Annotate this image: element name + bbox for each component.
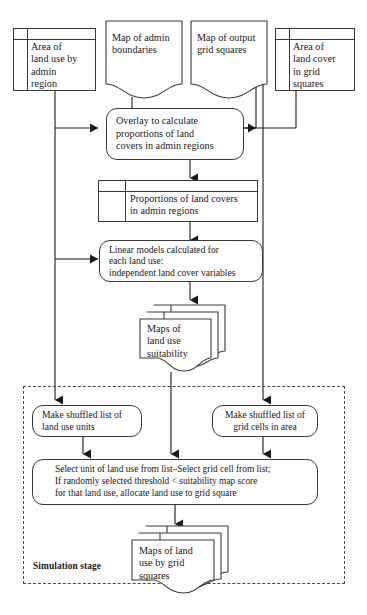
node-label-overlay: Overlay to calculate proportions of land… <box>107 115 243 153</box>
node-map-of-admin-boundaries: Map of admin boundaries <box>105 20 183 100</box>
table-body: Area of land cover in grid squares <box>276 40 354 90</box>
table-header-strip <box>99 181 257 192</box>
table-left-column <box>276 40 290 90</box>
node-area-land-cover-in-grid-squares: Area of land cover in grid squares <box>275 28 355 91</box>
label-simulation-stage: Simulation stage <box>33 561 101 571</box>
node-make-shuffled-list-land-use-units: Make shuffled list of land use units <box>32 405 142 437</box>
node-overlay-process: Overlay to calculate proportions of land… <box>106 108 244 160</box>
node-label-shuffle-land-use: Make shuffled list of land use units <box>33 409 141 432</box>
table-header-strip <box>276 29 354 40</box>
node-make-shuffled-list-grid-cells: Make shuffled list of grid cells in area <box>212 405 318 437</box>
table-body: Area of land use by admin region <box>14 40 95 90</box>
node-maps-of-land-use-by-grid-squares: Maps of land use by grid squares <box>131 524 231 596</box>
flowchart-diagram: Area of land use by admin region Map of … <box>0 0 367 615</box>
table-left-column <box>14 40 28 90</box>
node-map-of-output-grid-squares: Map of output grid squares <box>190 20 268 100</box>
node-area-land-use-by-admin-region: Area of land use by admin region <box>13 28 96 91</box>
node-label-area-land-cover: Area of land cover in grid squares <box>293 40 351 91</box>
table-left-column <box>99 192 126 221</box>
node-label-area-land-use: Area of land use by admin region <box>31 40 92 91</box>
node-select-and-allocate: Select unit of land use from list–Select… <box>32 459 318 505</box>
node-label-linear-models: Linear models calculated for each land u… <box>100 244 262 279</box>
table-header-divider <box>289 29 290 40</box>
node-label-map-admin-boundaries: Map of admin boundaries <box>112 32 180 57</box>
node-label-shuffle-grid-cells: Make shuffled list of grid cells in area <box>213 409 317 432</box>
table-body: Proportions of land covers in admin regi… <box>99 192 257 221</box>
node-label-proportions: Proportions of land covers in admin regi… <box>130 192 254 218</box>
node-label-maps-output: Maps of land use by grid squares <box>139 545 215 582</box>
table-header-divider <box>125 181 126 192</box>
node-label-select-allocate: Select unit of land use from list–Select… <box>33 464 317 499</box>
table-header-divider <box>27 29 28 40</box>
node-proportions-of-land-covers: Proportions of land covers in admin regi… <box>98 180 258 222</box>
node-maps-of-land-use-suitability: Maps of land use suitability <box>139 303 227 375</box>
node-label-map-output-grid-squares: Map of output grid squares <box>197 32 267 57</box>
node-label-maps-suitability: Maps of land use suitability <box>147 323 209 360</box>
node-linear-models: Linear models calculated for each land u… <box>99 240 263 282</box>
